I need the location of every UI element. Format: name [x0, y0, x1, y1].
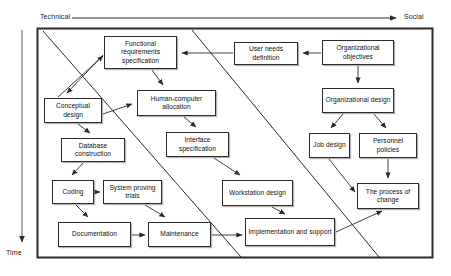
node-interface-specification[interactable]: Interface specification	[166, 132, 229, 157]
node-the-process-of-change[interactable]: The process of change	[357, 183, 419, 209]
axis-label-social: Social	[404, 13, 424, 20]
node-organizational-objectives[interactable]: Organizational objectives	[322, 40, 394, 65]
edge-orgdesign-to-jobdesign	[331, 114, 343, 128]
node-system-proving-trials[interactable]: System proving trials	[103, 180, 162, 204]
node-label: Organizational design	[326, 96, 391, 104]
node-implementation-and-support[interactable]: Implementation and support	[245, 218, 335, 246]
axis-label-time: Time	[6, 249, 22, 256]
node-label: Workstation design	[229, 189, 286, 197]
node-workstation-design[interactable]: Workstation design	[222, 180, 293, 206]
node-maintenance[interactable]: Maintenance	[148, 222, 211, 247]
node-label: Maintenance	[160, 230, 198, 238]
diagram-canvas: Technical Social Time Functional require…	[0, 0, 451, 276]
node-label: The process of change	[360, 188, 416, 205]
edge-interface-to-workstation	[214, 158, 240, 175]
node-conceptual-design[interactable]: Conceptual design	[44, 98, 102, 123]
node-functional-requirements-specification[interactable]: Functional requirements specification	[104, 36, 177, 69]
node-label: Interface specification	[169, 136, 226, 153]
node-label: Database construction	[64, 142, 122, 159]
edge-database-to-coding	[72, 163, 83, 175]
node-label: Personnel policies	[362, 137, 414, 154]
edge-conceptual-to-hca	[103, 104, 132, 114]
node-job-design[interactable]: Job design	[309, 133, 350, 158]
node-label: System proving trials	[106, 184, 159, 201]
node-human-computer-allocation[interactable]: Human-computer allocation	[137, 90, 216, 116]
node-personnel-policies[interactable]: Personnel policies	[359, 133, 417, 158]
node-label: Conceptual design	[47, 102, 99, 119]
edge-conceptual-to-funcreq	[58, 56, 103, 97]
edge-workstation-to-implementation	[272, 207, 285, 214]
node-database-construction[interactable]: Database construction	[61, 138, 125, 162]
edge-hca-to-interface	[184, 117, 196, 127]
axis-label-technical: Technical	[40, 13, 70, 20]
edge-implementation-to-process	[336, 211, 382, 232]
node-coding[interactable]: Coding	[52, 180, 94, 204]
node-label: User needs definition	[237, 45, 295, 62]
node-organizational-design[interactable]: Organizational design	[322, 88, 394, 113]
node-label: Organizational objectives	[325, 44, 391, 61]
edge-conceptual-to-database	[78, 124, 90, 133]
node-label: Job design	[313, 141, 345, 149]
node-documentation[interactable]: Documentation	[58, 222, 131, 247]
edge-coding-to-documentation	[76, 205, 88, 217]
node-label: Documentation	[72, 230, 117, 238]
edge-jobdesign-to-process	[329, 159, 355, 192]
node-label: Human-computer allocation	[140, 95, 213, 112]
node-user-needs-definition[interactable]: User needs definition	[234, 42, 298, 65]
node-label: Coding	[62, 188, 83, 196]
node-label: Functional requirements specification	[107, 40, 174, 65]
edge-orgdesign-to-personnel	[374, 114, 386, 128]
node-label: Implementation and support	[248, 228, 331, 236]
edge-sptrials-to-maintenance	[145, 205, 165, 217]
edge-funcreq-to-hca	[152, 70, 163, 85]
